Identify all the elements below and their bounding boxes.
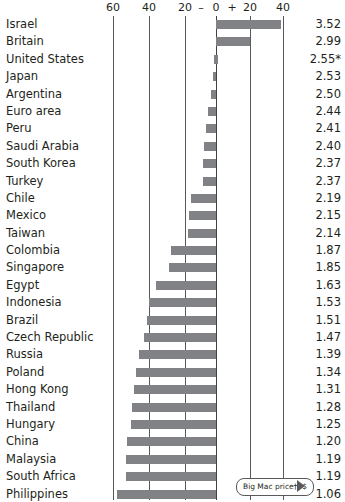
chart-row: Argentina2.50 [0,86,345,103]
big-mac-price-value: 1.19 [315,451,341,468]
big-mac-price-value: 2.37 [315,155,341,172]
country-label: Czech Republic [6,329,94,346]
big-mac-price-value: 2.53 [315,68,341,85]
chart-row: Egypt1.63 [0,277,345,294]
big-mac-price-value: 2.50 [315,86,341,103]
chart-row: Saudi Arabia2.40 [0,138,345,155]
chart-row: Euro area2.44 [0,103,345,120]
chart-row: South Korea2.37 [0,155,345,172]
value-bar [131,420,216,429]
value-bar [169,263,216,272]
axis-tick-label-minus60: 60 [106,1,120,14]
value-bar [211,90,216,99]
country-label: Philippines [6,486,68,502]
country-label: Indonesia [6,294,62,311]
big-mac-price-value: 2.99 [315,33,341,50]
big-mac-price-value: 1.39 [315,346,341,363]
big-mac-price-value: 2.14 [315,225,341,242]
chart-row: Hungary1.25 [0,416,345,433]
big-mac-price-value: 1.25 [315,416,341,433]
value-bar [139,350,216,359]
value-bar [132,403,216,412]
country-label: Taiwan [6,225,45,242]
chart-row: Peru2.41 [0,120,345,137]
country-label: Britain [6,33,44,50]
country-label: Argentina [6,86,62,103]
value-bar [208,107,216,116]
chart-row: Chile2.19 [0,190,345,207]
big-mac-price-value: 1.31 [315,381,341,398]
value-bar [214,55,218,64]
big-mac-price-value: 1.06 [315,486,341,502]
chart-row: Malaysia1.19 [0,451,345,468]
chart-row: Colombia1.87 [0,242,345,259]
country-label: Israel [6,16,37,33]
big-mac-price-value: 3.52 [315,16,341,33]
big-mac-price-value: 1.51 [315,312,341,329]
country-label: Hungary [6,416,55,433]
country-label: Thailand [6,399,55,416]
axis-minus-sign: – [198,1,204,14]
country-label: Chile [6,190,35,207]
chart-row: Indonesia1.53 [0,294,345,311]
value-bar [216,20,281,29]
chart-row: Britain2.99 [0,33,345,50]
value-bar [203,177,216,186]
chart-row: Israel3.52 [0,16,345,33]
country-label: Peru [6,120,32,137]
value-bar [134,385,216,394]
value-bar [191,194,216,203]
value-bar [171,246,216,255]
value-bar [188,229,216,238]
country-label: Poland [6,364,44,381]
big-mac-price-value: 2.37 [315,173,341,190]
big-mac-price-value: 1.53 [315,294,341,311]
big-mac-price-value: 1.63 [315,277,341,294]
big-mac-price-value: 1.20 [315,433,341,450]
value-bar [126,455,216,464]
value-bar [203,159,216,168]
country-label: Mexico [6,207,46,224]
country-label: Turkey [6,173,43,190]
big-mac-price-value: 1.28 [315,399,341,416]
country-label: South Korea [6,155,76,172]
callout-pointer-icon [298,481,305,491]
chart-row: Hong Kong1.31 [0,381,345,398]
value-bar [149,298,216,307]
big-mac-price-value: 1.47 [315,329,341,346]
axis-tick-label-minus20: 20 [178,1,192,14]
axis-tick-label-minus40: 40 [142,1,156,14]
big-mac-price-value: 1.34 [315,364,341,381]
big-mac-price-value: 2.15 [315,207,341,224]
axis-tick-label-plus40: 40 [276,1,290,14]
value-bar [117,490,216,499]
value-bar [189,211,216,220]
big-mac-price-value: 2.40 [315,138,341,155]
value-bar [144,333,216,342]
country-label: Singapore [6,259,64,276]
big-mac-price-value: 1.19 [315,468,341,485]
country-label: Russia [6,346,43,363]
country-label: United States [6,51,84,68]
country-label: Japan [6,68,38,85]
value-bar [127,437,216,446]
country-label: Hong Kong [6,381,69,398]
big-mac-price-value: 1.85 [315,259,341,276]
chart-row: Taiwan2.14 [0,225,345,242]
axis-tick-label-plus20: 20 [243,1,257,14]
value-bar [216,37,250,46]
chart-row: Czech Republic1.47 [0,329,345,346]
chart-row: Poland1.34 [0,364,345,381]
big-mac-price-value: 2.19 [315,190,341,207]
chart-row: United States2.55* [0,51,345,68]
country-label: Colombia [6,242,60,259]
value-bar [206,124,216,133]
chart-row: Mexico2.15 [0,207,345,224]
value-bar [126,472,216,481]
plot-area: Israel3.52Britain2.99United States2.55*J… [0,16,345,502]
axis-plus-sign: + [227,1,236,14]
country-label: China [6,433,39,450]
big-mac-price-value: 2.44 [315,103,341,120]
country-label: Brazil [6,312,38,329]
chart-row: Thailand1.28 [0,399,345,416]
